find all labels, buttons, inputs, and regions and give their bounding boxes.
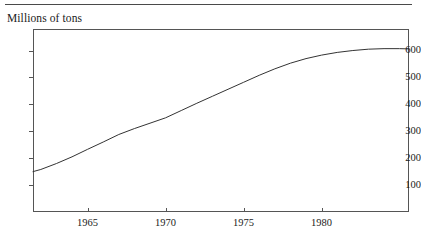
x-tick-label: 1980 [311, 218, 332, 229]
x-tick-mark [88, 208, 89, 212]
y-tick-mark [29, 158, 33, 159]
data-line-chart [33, 29, 409, 212]
chart-figure: Millions of tons 10020030040050060019651… [0, 0, 421, 245]
x-tick-mark [244, 208, 245, 212]
y-tick-label: 600 [395, 45, 421, 56]
y-tick-label: 300 [395, 126, 421, 137]
y-tick-label: 100 [395, 180, 421, 191]
x-tick-label: 1975 [233, 218, 254, 229]
y-axis [0, 0, 29, 245]
y-tick-mark [29, 104, 33, 105]
x-tick-label: 1965 [77, 218, 98, 229]
y-tick-label: 500 [395, 72, 421, 83]
y-tick-label: 200 [395, 153, 421, 164]
y-tick-mark [29, 185, 33, 186]
y-tick-mark [29, 77, 33, 78]
x-tick-mark [322, 208, 323, 212]
x-tick-label: 1970 [155, 218, 176, 229]
header-rule [5, 4, 412, 5]
x-tick-mark [166, 208, 167, 212]
y-tick-label: 400 [395, 99, 421, 110]
y-tick-mark [29, 131, 33, 132]
series-line-millions-of-tons [33, 49, 409, 172]
y-tick-mark [29, 51, 33, 52]
